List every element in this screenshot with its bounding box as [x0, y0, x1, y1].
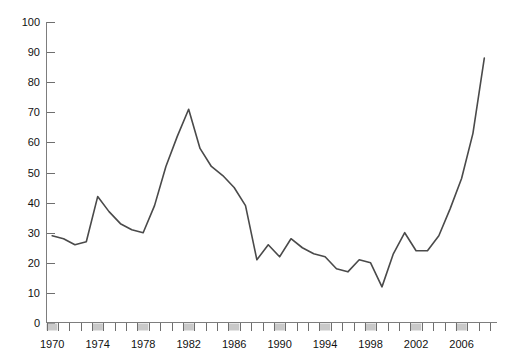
y-axis-tick-label: 0	[34, 317, 40, 329]
x-axis-tick-block	[92, 324, 103, 331]
x-axis-tick-labels: 1970197419781982198619901994199820022006	[40, 338, 474, 350]
y-axis-tick-label: 50	[28, 167, 40, 179]
x-axis-tick-label: 1974	[85, 338, 109, 350]
x-axis-tick-block	[456, 324, 467, 331]
x-axis-tick-block	[365, 324, 376, 331]
x-axis-tick-marks	[48, 323, 491, 331]
x-axis-tick-block	[274, 324, 285, 331]
y-axis-tick-label: 70	[28, 106, 40, 118]
x-axis-tick-label: 1982	[176, 338, 200, 350]
y-axis-tick-labels: 0102030405060708090100	[22, 16, 40, 329]
x-axis-tick-block	[47, 324, 58, 331]
x-axis-tick-block	[319, 324, 330, 331]
chart-canvas: 0102030405060708090100 19701974197819821…	[0, 0, 512, 362]
y-axis-tick-label: 20	[28, 257, 40, 269]
x-axis-tick-block	[228, 324, 239, 331]
x-axis-tick-label: 1994	[313, 338, 337, 350]
x-axis-tick-label: 2006	[449, 338, 473, 350]
y-axis-tick-label: 40	[28, 197, 40, 209]
x-axis-tick-label: 1998	[358, 338, 382, 350]
y-axis-tick-label: 30	[28, 227, 40, 239]
x-axis-tick-label: 2002	[404, 338, 428, 350]
x-axis-tick-label: 1970	[40, 338, 64, 350]
x-axis-tick-block	[137, 324, 148, 331]
line-chart: 0102030405060708090100 19701974197819821…	[0, 0, 512, 362]
y-axis-tick-label: 80	[28, 76, 40, 88]
data-series-line	[52, 58, 484, 287]
x-axis-tick-label: 1990	[267, 338, 291, 350]
x-axis-tick-blocks	[47, 324, 467, 331]
y-axis-tick-label: 60	[28, 136, 40, 148]
y-axis-tick-label: 100	[22, 16, 40, 28]
y-axis-tick-label: 90	[28, 46, 40, 58]
x-axis-tick-label: 1986	[222, 338, 246, 350]
y-axis-tick-label: 10	[28, 287, 40, 299]
x-axis-tick-label: 1978	[131, 338, 155, 350]
x-axis-tick-block	[183, 324, 194, 331]
x-axis-tick-block	[410, 324, 421, 331]
y-axis-tick-marks	[47, 23, 55, 324]
